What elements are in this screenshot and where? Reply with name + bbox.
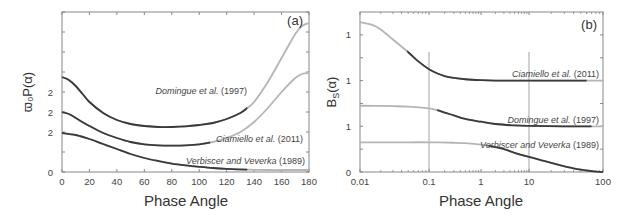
- series-annotation-year: (2011): [574, 69, 599, 79]
- x-tick-label: 0: [59, 176, 64, 187]
- series-annotation-year: (1997): [573, 115, 599, 125]
- series-annotation-name: Domingue et al.: [507, 115, 573, 125]
- series-annotation-name: Ciamiello et al.: [512, 69, 574, 79]
- x-tick-label: 0.01: [351, 176, 370, 187]
- series-annotation-name: Domingue et al.: [155, 86, 221, 96]
- x-tick-label: 40: [112, 176, 123, 187]
- y-tick-label: 0: [48, 167, 53, 178]
- x-tick-label: 160: [274, 176, 290, 187]
- x-tick-label: 10: [524, 176, 535, 187]
- y-tick-label: 2: [48, 87, 53, 98]
- panel-b: 01110.010.1110100 (b) Phase Angle BS(α) …: [324, 12, 611, 209]
- figure: 0222020406080100120140160180 (a) Phase A…: [0, 0, 631, 218]
- series-annotation: Ciamiello et al. (2011): [216, 134, 303, 144]
- y-tick-label: 1: [346, 29, 351, 40]
- panel-a-x-axis-title: Phase Angle: [144, 192, 228, 209]
- series-line-light: [62, 23, 309, 127]
- series-annotation-name: Verbiscer and Veverka: [186, 156, 279, 166]
- x-tick-label: 100: [191, 176, 207, 187]
- y-tick-label: 1: [346, 121, 351, 132]
- x-tick-label: 140: [246, 176, 262, 187]
- y-tick-label: 2: [48, 127, 53, 138]
- y-tick-label: 1: [346, 75, 351, 86]
- panel-b-y-axis-title-tail: (α): [324, 77, 339, 93]
- x-tick-label: 1: [478, 176, 483, 187]
- panel-b-ticks: 01110.010.1110100: [346, 12, 611, 187]
- series-annotation-year: (1989): [279, 156, 305, 166]
- panel-b-x-axis-title: Phase Angle: [439, 192, 523, 209]
- series-annotation: Ciamiello et al. (2011): [512, 69, 599, 79]
- series-annotation-name: Verbiscer and Veverka: [480, 140, 573, 150]
- series-annotation: Verbiscer and Veverka (1989): [186, 156, 305, 166]
- x-tick-label: 0.1: [422, 176, 435, 187]
- x-tick-label: 20: [84, 176, 95, 187]
- panel-a-label: (a): [287, 13, 303, 28]
- x-tick-label: 100: [595, 176, 611, 187]
- series-annotation: Domingue et al. (1997): [507, 115, 599, 125]
- series-annotation-name: Ciamiello et al.: [216, 134, 278, 144]
- y-tick-label: 2: [48, 107, 53, 118]
- panel-a-y-axis-title: ϖ₀P(α): [20, 72, 35, 112]
- x-tick-label: 80: [166, 176, 177, 187]
- panel-a-series: [62, 23, 309, 170]
- panel-b-y-axis-title-main: B: [324, 99, 339, 108]
- x-tick-label: 120: [219, 176, 235, 187]
- series-annotation-year: (1997): [221, 86, 247, 96]
- panel-a: 0222020406080100120140160180 (a) Phase A…: [20, 12, 317, 209]
- panel-b-label: (b): [581, 17, 597, 32]
- x-tick-label: 180: [301, 176, 317, 187]
- series-annotation: Verbiscer and Veverka (1989): [480, 140, 599, 150]
- series-annotation-year: (1989): [573, 140, 599, 150]
- x-tick-label: 60: [139, 176, 150, 187]
- series-annotation-year: (2011): [278, 134, 303, 144]
- panel-b-y-axis-title: BS(α): [324, 77, 341, 108]
- series-annotation: Domingue et al. (1997): [155, 86, 247, 96]
